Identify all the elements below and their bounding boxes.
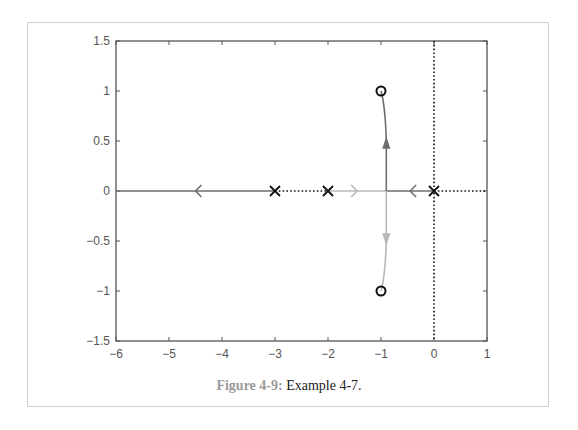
figure-caption: Figure 4-9: Example 4-7. — [0, 378, 578, 394]
x-tick-label: −6 — [109, 347, 123, 361]
x-tick-label: −2 — [321, 347, 335, 361]
figure-label: Figure 4-9: — [216, 378, 282, 393]
x-tick-label: −3 — [268, 347, 282, 361]
y-tick-label: −1.5 — [86, 334, 110, 348]
x-tick-label: −5 — [162, 347, 176, 361]
y-tick-label: 0 — [103, 184, 110, 198]
y-tick-label: −0.5 — [86, 234, 110, 248]
y-tick-label: 1 — [103, 84, 110, 98]
y-tick-label: −1 — [96, 284, 110, 298]
plot-content — [116, 41, 487, 341]
arrow-up-icon — [383, 139, 389, 148]
arrow-down-icon — [383, 234, 389, 243]
y-tick-label: 1.5 — [93, 34, 110, 48]
x-tick-label: 0 — [431, 347, 438, 361]
x-tick-label: 1 — [484, 347, 491, 361]
root-locus-chart: −6−5−4−3−2−1011.510.50−0.5−1−1.5 — [0, 0, 578, 430]
axis-ticks: −6−5−4−3−2−1011.510.50−0.5−1−1.5 — [86, 34, 490, 361]
x-tick-label: −1 — [374, 347, 388, 361]
figure-caption-text: Example 4-7. — [283, 378, 362, 393]
y-tick-label: 0.5 — [93, 134, 110, 148]
x-tick-label: −4 — [215, 347, 229, 361]
